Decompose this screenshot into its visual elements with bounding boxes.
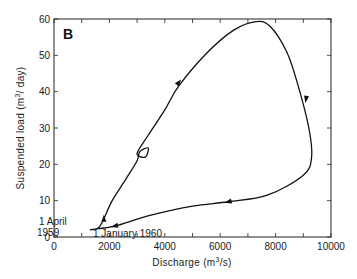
panel-label: B xyxy=(63,26,73,42)
y-tick-label: 60 xyxy=(39,14,51,25)
y-tick-label: 30 xyxy=(39,123,51,134)
hysteresis-curve xyxy=(90,21,312,229)
x-tick-label: 8000 xyxy=(264,241,287,252)
y-tick-label: 50 xyxy=(39,50,51,61)
arrow-icon xyxy=(304,96,309,103)
y-axis-label: Suspended load (m3/ day) xyxy=(14,67,26,190)
x-tick-label: 10000 xyxy=(317,241,345,252)
x-axis-label: Discharge (m3/s) xyxy=(152,256,231,268)
arrow-icon xyxy=(175,79,181,86)
y-tick-label: 40 xyxy=(39,86,51,97)
x-tick-label: 0 xyxy=(51,241,57,252)
plot-frame xyxy=(54,19,331,237)
annotation-end-date: 1 January 1960 xyxy=(93,228,162,239)
y-tick-label: 20 xyxy=(39,159,51,170)
annotation-start-year: 1959 xyxy=(37,227,60,238)
y-tick-label: 10 xyxy=(39,195,51,206)
hysteresis-chart: 02000400060008000100000102030405060 B Di… xyxy=(0,0,357,279)
arrow-icon xyxy=(225,199,233,204)
x-tick-label: 4000 xyxy=(154,241,177,252)
tick-labels: 02000400060008000100000102030405060 xyxy=(39,14,345,253)
direction-arrows xyxy=(101,79,309,227)
annotation-start-date: 1 April xyxy=(39,216,67,227)
x-tick-label: 2000 xyxy=(98,241,121,252)
axis-ticks xyxy=(54,19,331,237)
x-tick-label: 6000 xyxy=(209,241,232,252)
